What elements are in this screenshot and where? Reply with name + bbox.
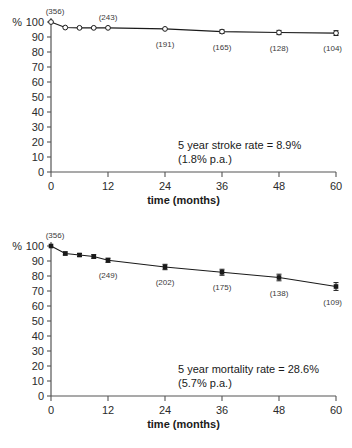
x-tick-label: 48: [273, 404, 285, 416]
point-count-label: (165): [213, 43, 232, 52]
point-count-label: (191): [156, 40, 175, 49]
x-tick-label: 60: [330, 180, 342, 192]
stroke-free-survival-chart: 0102030405060708090100%01224364860time (…: [0, 0, 352, 224]
data-point-marker: [163, 265, 168, 270]
x-tick-label: 0: [48, 180, 54, 192]
y-tick-label: 90: [32, 31, 44, 43]
data-point-marker: [106, 25, 111, 30]
y-tick-label: 0: [38, 390, 44, 402]
y-tick-label: 50: [32, 315, 44, 327]
point-count-label: (356): [46, 231, 65, 240]
data-point-marker: [77, 25, 82, 30]
stroke-chart-svg: 0102030405060708090100%01224364860time (…: [0, 0, 352, 224]
point-count-label: (104): [323, 44, 342, 53]
point-count-label: (243): [99, 13, 118, 22]
x-tick-label: 12: [102, 404, 114, 416]
point-count-label: (249): [99, 271, 118, 280]
data-point-marker: [91, 254, 96, 259]
annotation-line-2: (1.8% p.a.): [178, 153, 232, 165]
x-tick-label: 12: [102, 180, 114, 192]
point-count-label: (109): [323, 298, 342, 307]
data-point-marker: [49, 20, 54, 25]
x-tick-label: 0: [48, 404, 54, 416]
x-tick-label: 36: [216, 404, 228, 416]
y-axis-unit-label: %: [12, 240, 22, 252]
data-point-marker: [334, 31, 339, 36]
data-point-marker: [277, 30, 282, 35]
point-count-label: (356): [46, 7, 65, 16]
y-tick-label: 40: [32, 330, 44, 342]
survival-chart: 0102030405060708090100%01224364860time (…: [0, 224, 352, 448]
x-axis-title: time (months): [147, 418, 220, 430]
data-point-marker: [63, 251, 68, 256]
y-tick-label: 10: [32, 375, 44, 387]
y-tick-label: 10: [32, 151, 44, 163]
x-axis-title: time (months): [147, 194, 220, 206]
data-point-marker: [220, 29, 225, 34]
data-point-marker: [334, 284, 339, 289]
y-tick-label: 30: [32, 121, 44, 133]
annotation-line-1: 5 year stroke rate = 8.9%: [178, 139, 301, 151]
y-tick-label: 0: [38, 166, 44, 178]
y-tick-label: 20: [32, 360, 44, 372]
data-point-marker: [277, 275, 282, 280]
data-point-marker: [163, 27, 168, 32]
point-count-label: (138): [270, 289, 289, 298]
y-tick-label: 80: [32, 270, 44, 282]
data-point-marker: [220, 270, 225, 275]
data-point-marker: [49, 244, 54, 249]
y-tick-label: 100: [26, 240, 44, 252]
annotation-line-2: (5.7% p.a.): [178, 377, 232, 389]
y-tick-label: 80: [32, 46, 44, 58]
y-axis-unit-label: %: [12, 16, 22, 28]
data-point-marker: [106, 258, 111, 263]
point-count-label: (128): [270, 44, 289, 53]
y-tick-label: 100: [26, 16, 44, 28]
x-tick-label: 60: [330, 404, 342, 416]
data-line: [51, 246, 336, 287]
x-tick-label: 48: [273, 180, 285, 192]
y-tick-label: 90: [32, 255, 44, 267]
data-point-marker: [77, 253, 82, 258]
y-tick-label: 30: [32, 345, 44, 357]
y-tick-label: 40: [32, 106, 44, 118]
y-tick-label: 70: [32, 61, 44, 73]
chart-page: 0102030405060708090100%01224364860time (…: [0, 0, 352, 448]
y-tick-label: 60: [32, 300, 44, 312]
y-tick-label: 50: [32, 91, 44, 103]
point-count-label: (202): [156, 278, 175, 287]
x-tick-label: 24: [159, 404, 171, 416]
x-tick-label: 36: [216, 180, 228, 192]
x-tick-label: 24: [159, 180, 171, 192]
annotation-line-1: 5 year mortality rate = 28.6%: [178, 363, 319, 375]
data-point-marker: [63, 25, 68, 30]
data-point-marker: [91, 25, 96, 30]
point-count-label: (175): [213, 283, 232, 292]
y-tick-label: 60: [32, 76, 44, 88]
mortality-chart-svg: 0102030405060708090100%01224364860time (…: [0, 224, 352, 448]
y-tick-label: 70: [32, 285, 44, 297]
y-tick-label: 20: [32, 136, 44, 148]
